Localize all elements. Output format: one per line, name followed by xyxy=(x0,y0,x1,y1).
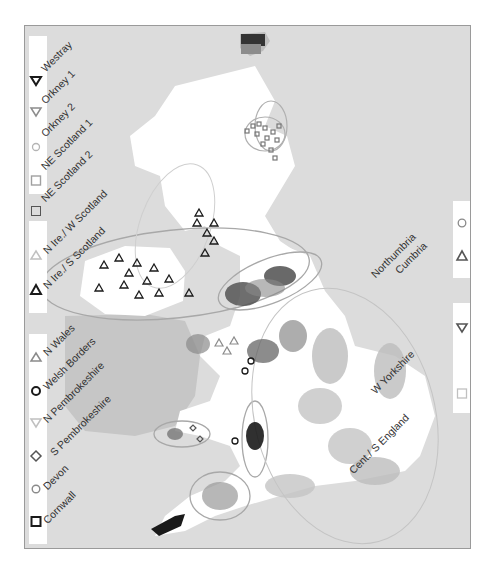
triangle-down-icon xyxy=(31,108,41,116)
legend-symbols xyxy=(25,26,471,549)
triangle-up-icon xyxy=(31,285,41,294)
triangle-up-icon xyxy=(31,353,41,361)
square-icon xyxy=(32,176,41,185)
circle-icon xyxy=(33,144,40,151)
square-icon xyxy=(458,389,467,398)
triangle-down-icon xyxy=(31,419,41,427)
square-icon xyxy=(31,206,41,216)
triangle-down-icon xyxy=(457,324,467,332)
circle-icon xyxy=(32,485,40,493)
diamond-icon xyxy=(31,451,41,461)
triangle-down-icon xyxy=(31,77,41,85)
triangle-up-icon xyxy=(457,251,467,260)
map-frame: Westray Orkney 1 Orkney 2 NE Scotland 1 … xyxy=(24,25,471,549)
circle-icon xyxy=(458,219,466,227)
circle-icon xyxy=(32,387,40,395)
square-icon xyxy=(32,517,41,526)
triangle-up-icon xyxy=(31,251,41,259)
